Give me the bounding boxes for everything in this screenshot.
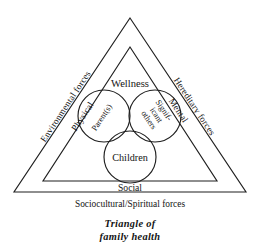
diagram-canvas: Environmental forces Hereditary forces P… bbox=[0, 0, 255, 251]
outer-triangle-shape bbox=[14, 18, 246, 192]
triangle-of-family-health-figure: Environmental forces Hereditary forces P… bbox=[0, 0, 255, 251]
label-social: Social bbox=[118, 182, 142, 193]
label-children: Children bbox=[112, 152, 148, 163]
caption-line-1: Triangle of bbox=[104, 218, 156, 229]
caption-line-2: family health bbox=[100, 231, 161, 242]
label-wellness: Wellness bbox=[111, 78, 149, 89]
label-sociocultural-spiritual-forces: Sociocultural/Spiritual forces bbox=[75, 199, 185, 209]
